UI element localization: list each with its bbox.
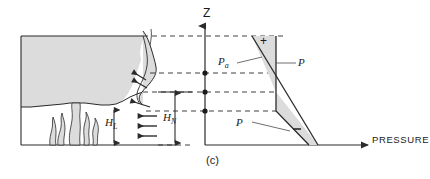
layer-height-label-sub: L — [113, 122, 117, 131]
pressure-profile-figure: Z PRESSURE Pa P P HL HN + (c) — [0, 0, 430, 179]
hot-gas-layer-fill — [21, 36, 143, 107]
compartment-pressure-label-lower: P — [236, 117, 243, 128]
neutral-plane-height-label-sub: N — [171, 117, 176, 126]
layer-height-label-base: H — [105, 116, 113, 128]
z-axis-label: Z — [203, 7, 210, 19]
compartment-pressure-label-upper: P — [298, 57, 305, 68]
neutral-plane-height-label: HN — [163, 112, 176, 126]
pressure-axis-label: PRESSURE — [372, 135, 429, 145]
neutral-plane-height-label-base: H — [163, 111, 171, 123]
ambient-pressure-label: Pa — [218, 56, 229, 70]
ambient-pressure-label-base: P — [218, 55, 225, 67]
inflow-arrows — [138, 116, 157, 136]
ambient-pressure-label-sub: a — [225, 61, 229, 70]
figure-caption: (c) — [206, 155, 219, 166]
negative-pressure-region — [276, 92, 318, 145]
positive-sign-label: + — [260, 35, 267, 47]
figure-canvas — [0, 0, 430, 179]
ambient-pressure-line — [252, 36, 318, 145]
layer-height-label: HL — [105, 117, 117, 131]
fire-plume — [50, 103, 99, 145]
